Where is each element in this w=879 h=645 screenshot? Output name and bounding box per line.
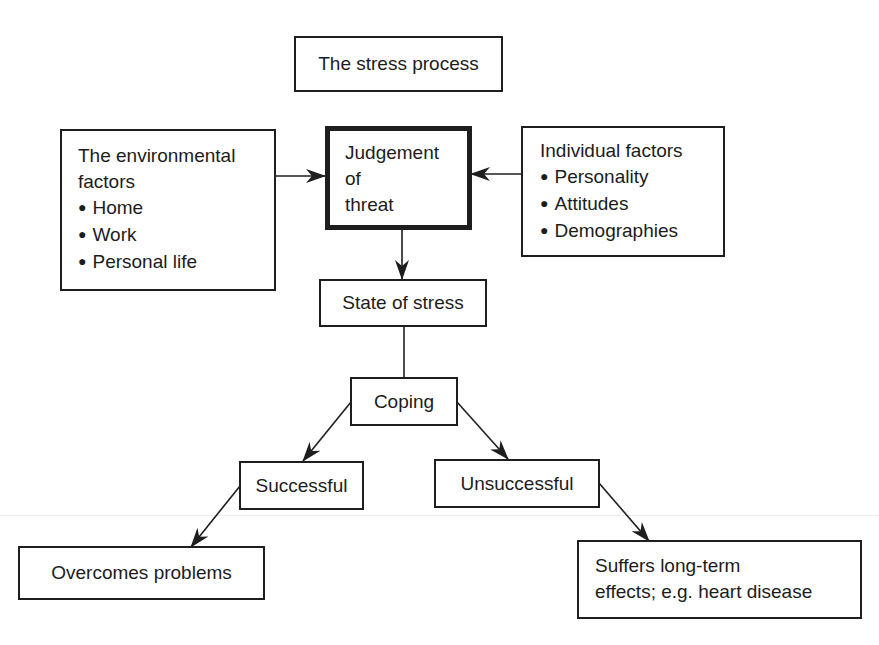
environmental-heading-line-1: The environmental <box>78 143 274 169</box>
unsuccessful-box: Unsuccessful <box>434 459 600 508</box>
individual-item-attitudes: Attitudes <box>540 191 723 218</box>
environmental-item-home: Home <box>78 195 274 222</box>
environmental-item-personal-life: Personal life <box>78 249 274 276</box>
judgement-of-threat-box: Judgement of threat <box>325 126 472 230</box>
arrow-unsuccessful-to-suffers <box>599 483 649 541</box>
judgement-line-2: of <box>345 166 467 192</box>
overcomes-problems-label: Overcomes problems <box>51 560 232 586</box>
suffers-long-term-effects-box: Suffers long-term effects; e.g. heart di… <box>577 540 862 619</box>
individual-item-demographies: Demographies <box>540 218 723 245</box>
judgement-line-1: Judgement <box>345 140 467 166</box>
suffers-line-1: Suffers long-term <box>595 553 860 579</box>
suffers-line-2: effects; e.g. heart disease <box>595 579 860 605</box>
judgement-line-3: threat <box>345 192 467 218</box>
arrow-coping-to-unsuccessful <box>457 402 508 459</box>
arrow-successful-to-overcomes <box>191 486 240 547</box>
coping-box: Coping <box>350 377 458 426</box>
individual-factors-box: Individual factors Personality Attitudes… <box>521 126 725 257</box>
individual-item-personality: Personality <box>540 164 723 191</box>
arrow-coping-to-successful <box>303 402 351 461</box>
diagram-title: The stress process <box>318 51 479 77</box>
title-box: The stress process <box>294 36 503 92</box>
state-of-stress-box: State of stress <box>319 279 487 327</box>
individual-heading: Individual factors <box>540 138 723 164</box>
successful-box: Successful <box>239 461 364 510</box>
environmental-factors-box: The environmental factors Home Work Pers… <box>60 129 276 291</box>
environmental-heading-line-2: factors <box>78 169 274 195</box>
overcomes-problems-box: Overcomes problems <box>18 546 265 600</box>
unsuccessful-label: Unsuccessful <box>461 471 574 497</box>
successful-label: Successful <box>256 473 348 499</box>
environmental-item-work: Work <box>78 222 274 249</box>
state-of-stress-label: State of stress <box>342 290 463 316</box>
coping-label: Coping <box>374 389 434 415</box>
